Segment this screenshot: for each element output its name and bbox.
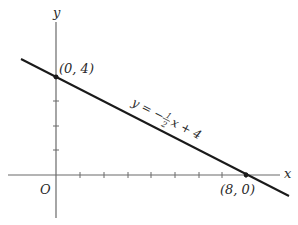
point-8-0-label: (8, 0) bbox=[220, 182, 255, 197]
point-8-0 bbox=[244, 173, 249, 178]
x-axis-label: x bbox=[284, 166, 292, 181]
point-0-4 bbox=[54, 75, 59, 80]
y-axis-label: y bbox=[52, 5, 61, 20]
origin-label: O bbox=[40, 182, 51, 197]
equation-lhs: y = − bbox=[129, 95, 167, 124]
linear-equation-graph: y x O (0, 4) (8, 0) y = − 1 2 x + 4 bbox=[0, 0, 298, 225]
point-0-4-label: (0, 4) bbox=[59, 61, 94, 76]
